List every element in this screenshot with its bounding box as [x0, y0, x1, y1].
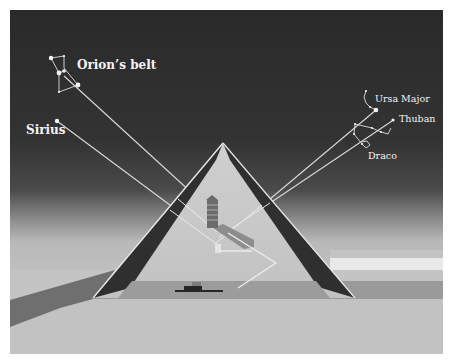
- orion-belt-star: [62, 69, 66, 73]
- king-chamber: [206, 195, 218, 228]
- ursa-major-star: [369, 106, 371, 108]
- orion-star: [49, 56, 53, 60]
- orion-star: [63, 55, 65, 57]
- ursa-major-star: [365, 90, 367, 92]
- orion-star: [76, 83, 81, 88]
- king-chamber-body: [207, 200, 218, 228]
- label-thuban: Thuban: [399, 113, 435, 124]
- label-draco: Draco: [368, 150, 397, 161]
- sand-foreground: [10, 299, 443, 354]
- draco-star: [354, 123, 356, 125]
- label-orions-belt: Orion’s belt: [77, 58, 157, 72]
- draco-star: [380, 131, 382, 133]
- thuban-star: [391, 118, 394, 121]
- label-ursa-major: Ursa Major: [375, 93, 430, 104]
- subterranean-passage: [175, 290, 223, 292]
- orion-star: [58, 91, 60, 93]
- draco-star: [361, 143, 363, 145]
- draco-star: [353, 133, 355, 135]
- pyramid-base-band: [118, 281, 330, 298]
- ursa-major-star: [374, 108, 379, 113]
- orion-belt-star: [57, 71, 62, 76]
- label-sirius: Sirius: [26, 123, 66, 137]
- draco-star: [371, 127, 373, 129]
- horizon-haze-band: [330, 258, 443, 270]
- horizon-haze-strip: [330, 250, 443, 258]
- pyramid-star-diagram: Orion’s belt Sirius Ursa Major Thuban Dr…: [0, 0, 453, 364]
